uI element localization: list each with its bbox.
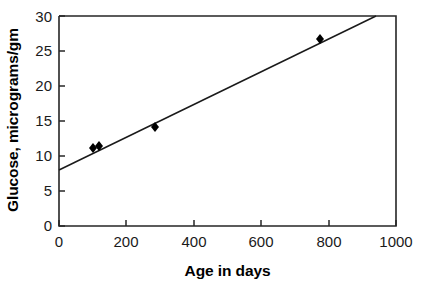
x-tick-label-400: 400 (181, 233, 206, 250)
x-axis-title: Age in days (59, 262, 396, 280)
data-point-marker (151, 122, 159, 132)
y-tick-label-20: 20 (35, 77, 52, 94)
plot-area: 0 5 10 15 20 25 30 0 200 400 600 800 100… (0, 0, 425, 291)
axis-frame (59, 16, 396, 226)
x-tick-label-600: 600 (248, 233, 273, 250)
y-tick-label-5: 5 (44, 182, 52, 199)
y-tick-label-25: 25 (35, 42, 52, 59)
y-tick-label-10: 10 (35, 147, 52, 164)
y-tick-marks (59, 16, 65, 226)
frame-border (59, 16, 396, 226)
x-tick-labels: 0 200 400 600 800 1000 (55, 233, 413, 250)
x-tick-label-1000: 1000 (379, 233, 412, 250)
chart-figure: Glucose, micrograms/gm 0 (0, 0, 425, 291)
x-tick-label-200: 200 (113, 233, 138, 250)
regression-line (59, 16, 376, 170)
y-tick-labels: 0 5 10 15 20 25 30 (35, 8, 52, 234)
y-tick-label-0: 0 (44, 217, 52, 234)
x-tick-label-800: 800 (316, 233, 341, 250)
x-tick-marks (59, 220, 396, 226)
y-tick-label-15: 15 (35, 112, 52, 129)
fit-line-segment (59, 16, 376, 170)
data-point-markers (89, 34, 324, 153)
y-tick-label-30: 30 (35, 8, 52, 25)
x-tick-label-0: 0 (55, 233, 63, 250)
